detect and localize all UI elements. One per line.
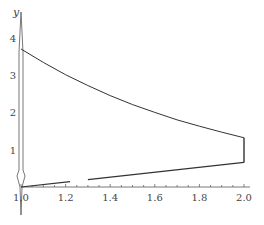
x-tick-label: 2.0 — [236, 192, 252, 203]
x-tick-label: 1.0 — [13, 192, 29, 203]
plot-area: y 1234 1.01.21.41.61.82.0 — [0, 0, 264, 225]
svg-text:y: y — [12, 6, 20, 19]
lower-boundary-line — [21, 182, 70, 187]
y-tick-labels: 1234 — [10, 33, 16, 156]
y-tick-label: 3 — [10, 70, 16, 81]
data-series — [21, 49, 244, 187]
x-tick-label: 1.4 — [102, 192, 118, 203]
x-tick-label: 1.6 — [147, 192, 163, 203]
x-tick-label: 1.2 — [58, 192, 74, 203]
y-tick-label: 4 — [10, 33, 16, 44]
y-tick-label: 2 — [10, 107, 16, 118]
lower-boundary-line — [88, 162, 244, 179]
upper-boundary-line — [21, 49, 244, 138]
y-tick-label: 1 — [10, 145, 16, 156]
x-tick-labels: 1.01.21.41.61.82.0 — [13, 192, 252, 203]
x-tick-label: 1.8 — [191, 192, 207, 203]
y-axis-name: y — [12, 6, 20, 19]
x-axis — [21, 184, 250, 187]
